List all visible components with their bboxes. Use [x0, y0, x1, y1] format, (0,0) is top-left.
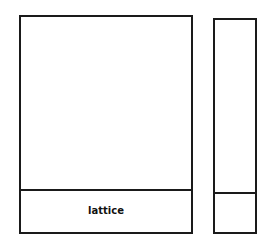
side-panel — [213, 18, 257, 234]
side-panel-bottom-section — [215, 194, 255, 232]
main-panel-bottom-section: lattice — [21, 191, 191, 232]
main-panel: lattice — [19, 15, 193, 234]
diagram-canvas: lattice — [0, 0, 270, 242]
lattice-label: lattice — [21, 205, 191, 216]
